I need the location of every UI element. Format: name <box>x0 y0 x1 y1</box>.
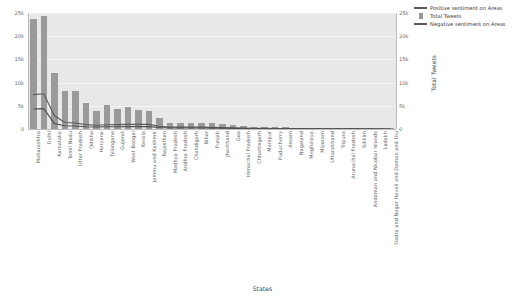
bar-series-total-tweets <box>28 13 396 129</box>
bar <box>72 91 79 129</box>
legend-item-label: Positive sentiment on Areas <box>430 5 502 11</box>
bar <box>219 124 226 129</box>
y-axis-right-line <box>396 13 397 129</box>
x-axis-tick-label: Chandigarh <box>193 131 199 160</box>
y-axis-left-tick-label: 20k <box>0 33 24 39</box>
y-axis-left-tick-label: 15k <box>0 56 24 62</box>
legend-bar-swatch <box>414 13 427 19</box>
x-axis-tick-label: Delhi <box>46 131 52 144</box>
legend-item-label: Total Tweets <box>430 13 461 19</box>
bar <box>251 127 258 129</box>
x-axis-tick-label: Rajasthan <box>161 131 167 156</box>
x-axis-tick-label: Jammu and Kashmir <box>151 131 157 182</box>
bar <box>177 123 184 129</box>
x-axis-tick-label: Tamil Nadu <box>67 131 73 159</box>
y-axis-right-tick-label: 10k <box>399 80 409 86</box>
bar <box>387 128 394 129</box>
bar <box>261 127 268 129</box>
bar <box>156 118 163 129</box>
x-axis-tick-label: Mizoram <box>319 131 325 153</box>
x-axis-tick-label: Sikkim <box>361 131 367 148</box>
x-axis-tick-label: Andaman and Nicobar Islands <box>372 131 378 207</box>
bar <box>104 105 111 129</box>
x-axis-tick-label: Manipur <box>266 131 272 152</box>
bar <box>324 128 331 129</box>
x-axis-tick-label: Goa <box>235 131 241 141</box>
x-axis-tick-label: Arunachal Pradesh <box>350 131 356 179</box>
bar <box>282 127 289 129</box>
x-axis-tick-label: Kerala <box>140 131 146 147</box>
legend-item-label: Negative sentiment on Areas <box>430 21 506 27</box>
x-axis-tick-label: Meghalaya <box>308 131 314 159</box>
legend-item[interactable]: Negative sentiment on Areas <box>414 20 506 28</box>
x-axis-title: States <box>0 285 525 292</box>
y-axis-left-tick-label: 5k <box>0 103 24 109</box>
bar <box>356 128 363 129</box>
x-axis-tick-label: Gujarat <box>119 131 125 150</box>
y-axis-right-tick-label: 0 <box>399 126 402 132</box>
legend-item[interactable]: Total Tweets <box>414 12 506 20</box>
bar <box>125 107 132 129</box>
x-axis-tick-label: Himachal Pradesh <box>245 131 251 177</box>
x-axis-tick-label: Uttarakhand <box>329 131 335 163</box>
bar <box>240 126 247 129</box>
x-axis-tick-label: Odisha <box>88 131 94 149</box>
bar <box>146 111 153 129</box>
x-axis-tick-label: Madhya Pradesh <box>172 131 178 173</box>
x-axis-tick-label: West Bengal <box>130 131 136 163</box>
bar <box>230 125 237 129</box>
bar <box>293 128 300 129</box>
x-axis-tick-label: Ladakh <box>382 131 388 149</box>
y-axis-right-tick-label: 5k <box>399 103 405 109</box>
bar <box>345 128 352 129</box>
bar <box>303 128 310 129</box>
bar <box>30 19 37 129</box>
bar <box>272 127 279 129</box>
x-axis-tick-label: Chhattisgarh <box>256 131 262 164</box>
bar <box>377 128 384 129</box>
bar <box>135 110 142 129</box>
bar <box>314 128 321 129</box>
legend-line-swatch <box>414 7 427 8</box>
x-axis-tick-label: Uttar Pradesh <box>77 131 83 166</box>
bar <box>93 111 100 129</box>
bar <box>209 123 216 129</box>
y-axis-right-tick-label: 25k <box>399 10 409 16</box>
x-axis-tick-label: Punjab <box>214 131 220 148</box>
bar <box>51 73 58 129</box>
x-axis-tick-label: Puducherry <box>277 131 283 160</box>
chart-legend: Positive sentiment on AreasTotal TweetsN… <box>414 4 506 28</box>
x-axis-tick-label: Tripura <box>340 131 346 149</box>
bar <box>41 16 48 129</box>
x-axis-tick-label: Telangana <box>109 131 115 157</box>
bar <box>198 123 205 129</box>
y-axis-left-tick-label: 10k <box>0 80 24 86</box>
y-axis-right-tick-label: 20k <box>399 33 409 39</box>
x-axis-tick-label: Assam <box>287 131 293 148</box>
y-axis-right-title: Total Tweets <box>430 55 437 91</box>
x-axis-tick-label: Bihar <box>203 131 209 144</box>
bar <box>62 91 69 129</box>
bar <box>366 128 373 129</box>
legend-item[interactable]: Positive sentiment on Areas <box>414 4 506 12</box>
x-axis-tick-label: Jharkhand <box>224 131 230 157</box>
x-axis-tick-label: Nagaland <box>298 131 304 155</box>
bar <box>167 123 174 129</box>
x-axis-tick-label: Andhra Pradesh <box>182 131 188 171</box>
chart-container: 25k20k15k10k5k0 25k20k15k10k5k0 Maharash… <box>0 0 525 303</box>
legend-line-swatch <box>414 23 427 24</box>
bar <box>188 123 195 129</box>
x-axis-ticks: MaharashtraDelhiKarnatakaTamil NaduUttar… <box>28 131 396 241</box>
bar <box>335 128 342 129</box>
y-axis-right-tick-label: 15k <box>399 56 409 62</box>
x-axis-tick-label: Haryana <box>98 131 104 153</box>
x-axis-tick-label: Maharashtra <box>35 131 41 163</box>
y-axis-left-tick-label: 25k <box>0 10 24 16</box>
x-axis-tick-label: Dadra and Nagar Haveli and Daman and Diu <box>393 131 399 245</box>
x-axis-tick-label: Karnataka <box>56 131 62 157</box>
y-axis-left-tick-label: 0 <box>0 126 24 132</box>
bar <box>83 103 90 129</box>
bar <box>114 109 121 129</box>
